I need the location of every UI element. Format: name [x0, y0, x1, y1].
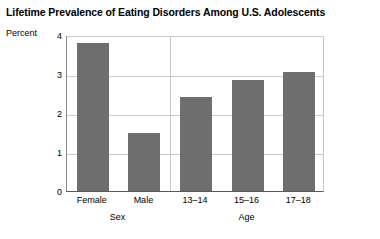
y-axis-tick-label: 4 [40, 32, 62, 41]
x-axis-group-label: Sex [66, 212, 169, 223]
y-axis-tick-label: 3 [40, 71, 62, 80]
y-axis-tick-labels: 01234 [38, 36, 62, 192]
x-axis-tick-label: Male [118, 195, 170, 206]
bar [232, 80, 264, 191]
bar-chart-figure: Lifetime Prevalence of Eating Disorders … [0, 0, 380, 239]
group-divider [170, 37, 171, 191]
y-axis-tick-label: 2 [40, 110, 62, 119]
bar [128, 133, 160, 192]
bar [180, 97, 212, 191]
chart-title: Lifetime Prevalence of Eating Disorders … [6, 6, 325, 18]
plot-area [66, 36, 324, 192]
bar [77, 43, 109, 191]
x-axis-tick-label: 17–18 [272, 195, 324, 206]
y-axis-tick-label: 0 [40, 188, 62, 197]
x-axis-tick-label: Female [66, 195, 118, 206]
x-axis-group-label: Age [169, 212, 324, 223]
y-axis-title: Percent [6, 28, 37, 39]
x-axis-tick-labels: FemaleMale13–1415–1617–18 [66, 195, 324, 209]
bar [283, 72, 315, 191]
x-axis-tick-label: 13–14 [169, 195, 221, 206]
x-axis-tick-label: 15–16 [221, 195, 273, 206]
x-axis-group-labels: SexAge [66, 212, 324, 226]
y-axis-tick-label: 1 [40, 149, 62, 158]
